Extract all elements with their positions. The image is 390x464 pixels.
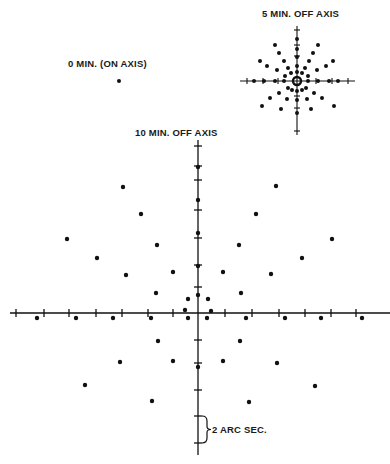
spot-point bbox=[285, 97, 289, 101]
spot-diagram-plot bbox=[0, 0, 390, 464]
spot-point bbox=[277, 51, 281, 55]
spot-point bbox=[303, 66, 307, 70]
spot-point bbox=[244, 316, 248, 320]
spot-point bbox=[295, 111, 299, 115]
scale-brace bbox=[202, 416, 211, 443]
spot-point bbox=[316, 79, 320, 83]
spot-point bbox=[154, 291, 158, 295]
spot-point bbox=[171, 359, 175, 363]
spot-point bbox=[313, 384, 317, 388]
spot-point bbox=[312, 91, 316, 95]
spot-point bbox=[275, 361, 279, 365]
spot-point bbox=[117, 79, 121, 83]
spot-point bbox=[254, 212, 258, 216]
spot-point bbox=[155, 243, 159, 247]
spot-point bbox=[196, 165, 200, 169]
spot-point bbox=[286, 66, 290, 70]
spot-point bbox=[290, 88, 294, 92]
spot-point bbox=[327, 79, 331, 83]
spot-point bbox=[196, 293, 200, 297]
spot-point bbox=[124, 273, 128, 277]
spot-point bbox=[35, 316, 39, 320]
spot-point bbox=[196, 231, 200, 235]
spot-point bbox=[186, 297, 190, 301]
spot-point bbox=[331, 59, 335, 63]
spot-point bbox=[65, 237, 69, 241]
spot-point bbox=[295, 55, 299, 59]
spot-point bbox=[295, 89, 299, 93]
spot-point bbox=[205, 316, 209, 320]
spot-point bbox=[279, 107, 283, 111]
spot-point bbox=[121, 185, 125, 189]
spot-point bbox=[360, 316, 364, 320]
spot-point bbox=[295, 98, 299, 102]
spot-point bbox=[252, 79, 256, 83]
spot-point bbox=[282, 79, 286, 83]
spot-point bbox=[319, 316, 323, 320]
spot-point bbox=[289, 71, 293, 75]
spot-point bbox=[268, 96, 272, 100]
spot-point bbox=[269, 272, 273, 276]
spot-point bbox=[320, 96, 324, 100]
spot-point bbox=[306, 79, 310, 83]
spot-point bbox=[74, 316, 78, 320]
spot-point bbox=[238, 339, 242, 343]
spot-point bbox=[150, 399, 154, 403]
spot-point bbox=[139, 212, 143, 216]
spot-point bbox=[186, 316, 190, 320]
spot-point bbox=[95, 256, 99, 260]
spot-point bbox=[324, 64, 328, 68]
spot-point bbox=[295, 64, 299, 68]
spot-point bbox=[183, 308, 187, 312]
spot-point bbox=[118, 360, 122, 364]
spot-point bbox=[295, 70, 299, 74]
spot-point bbox=[196, 365, 200, 369]
spot-point bbox=[273, 79, 277, 83]
spot-point bbox=[149, 316, 153, 320]
spot-point bbox=[330, 237, 334, 241]
spot-point bbox=[282, 59, 286, 63]
spot-point bbox=[206, 297, 210, 301]
spot-point bbox=[332, 104, 336, 108]
spot-point bbox=[221, 270, 225, 274]
spot-point bbox=[315, 68, 319, 72]
spot-point bbox=[247, 400, 251, 404]
spot-point bbox=[196, 198, 200, 202]
spot-point bbox=[262, 79, 266, 83]
spot-point bbox=[156, 339, 160, 343]
spot-point bbox=[221, 359, 225, 363]
spot-point bbox=[283, 74, 287, 78]
spot-point bbox=[171, 270, 175, 274]
spot-point bbox=[273, 43, 277, 47]
spot-point bbox=[83, 383, 87, 387]
spot-point bbox=[196, 264, 200, 268]
spot-point bbox=[209, 309, 213, 313]
spot-point bbox=[275, 68, 279, 72]
spot-point bbox=[295, 37, 299, 41]
spot-point bbox=[258, 59, 262, 63]
spot-point bbox=[237, 243, 241, 247]
spot-point bbox=[316, 43, 320, 47]
spot-point bbox=[295, 47, 299, 51]
spot-point bbox=[309, 107, 313, 111]
spot-point bbox=[274, 184, 278, 188]
spot-point bbox=[306, 74, 310, 78]
spot-point bbox=[111, 316, 115, 320]
spot-point bbox=[300, 88, 304, 92]
spot-point bbox=[307, 59, 311, 63]
spot-point bbox=[286, 86, 290, 90]
spot-point bbox=[300, 71, 304, 75]
spot-point bbox=[283, 316, 287, 320]
spot-point bbox=[311, 51, 315, 55]
spot-point bbox=[305, 97, 309, 101]
spot-point bbox=[265, 64, 269, 68]
spot-point bbox=[277, 91, 281, 95]
spot-point bbox=[239, 291, 243, 295]
spot-point bbox=[260, 104, 264, 108]
spot-diagram-figure: 5 MIN. OFF AXIS 0 MIN. (ON AXIS) 10 MIN.… bbox=[0, 0, 390, 464]
spot-point bbox=[300, 256, 304, 260]
spot-point bbox=[336, 79, 340, 83]
spot-point bbox=[304, 86, 308, 90]
